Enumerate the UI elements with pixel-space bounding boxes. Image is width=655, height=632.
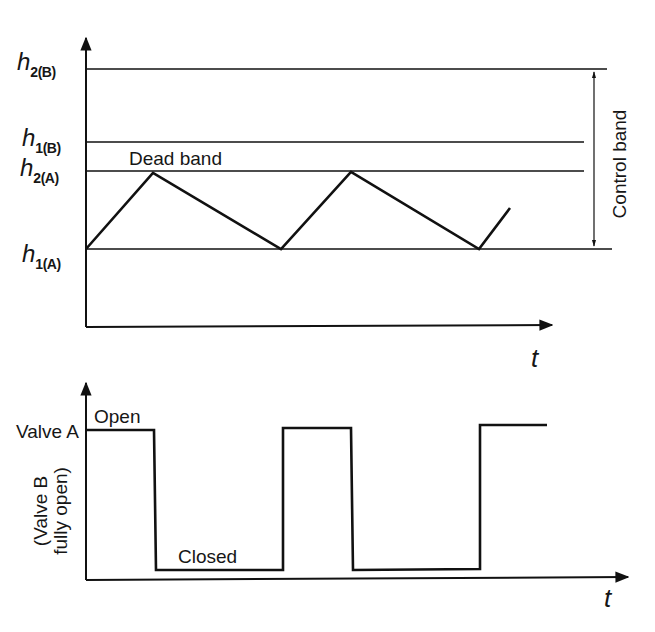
level-sawtooth-waveform [86,172,510,249]
bottom-x-axis [86,577,628,580]
valve-b-label: (Valve B fully open) [31,446,71,576]
h-symbol: h [22,124,35,151]
open-label: Open [94,407,140,426]
label-h1B: h1(B) [22,126,61,155]
bottom-t-label: t [604,585,611,611]
top-chart-axes [86,38,552,327]
top-x-axis [86,325,552,327]
h-symbol: h [22,240,35,267]
h-subscript: 2(B) [30,64,55,80]
h-subscript: 1(B) [35,140,60,156]
top-t-label: t [531,345,538,371]
dead-band-label: Dead band [129,149,222,168]
control-band-label: Control band [610,104,630,224]
label-h1A: h1(A) [22,242,61,271]
valve-square-waveform [86,425,547,570]
h-subscript: 1(A) [35,256,60,272]
valve-a-label: Valve A [16,422,79,441]
closed-label: Closed [178,547,237,566]
valve-b-label-line1: (Valve B [31,446,51,576]
valve-b-label-line2: fully open) [51,446,71,576]
bottom-chart-axes [86,383,628,580]
diagram-canvas [0,0,655,632]
h-symbol: h [17,48,30,75]
label-h2B: h2(B) [17,50,56,79]
h-symbol: h [20,154,33,181]
label-h2A: h2(A) [20,156,59,185]
h-subscript: 2(A) [33,170,58,186]
